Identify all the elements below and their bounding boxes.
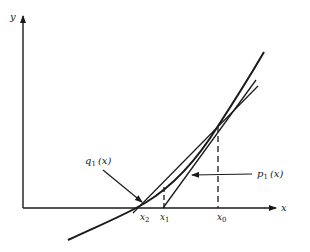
label-q1: q1(x) [85,155,111,168]
label-x2: x2 [140,212,150,224]
q1-arrow [103,170,142,202]
label-p1: p1(x) [257,168,283,181]
secant-tangent-diagram: y x x2 x1 x0 p1(x) q1(x) [0,0,310,252]
label-x1: x1 [160,212,170,224]
secant-line-p1 [163,80,256,208]
line-q1 [133,86,258,213]
function-curve [68,52,264,240]
y-axis-label: y [9,11,16,22]
p1-arrow [192,174,252,175]
label-x0: x0 [217,212,227,224]
x-axis-label: x [281,202,287,213]
